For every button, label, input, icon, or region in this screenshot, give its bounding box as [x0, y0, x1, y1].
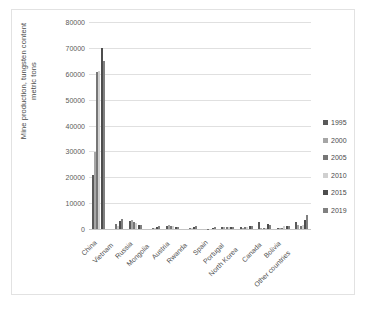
legend-label: 2010: [331, 172, 347, 179]
bar-group: [145, 22, 164, 229]
legend-label: 2000: [331, 137, 347, 144]
y-axis-tick-label: 80000: [66, 19, 85, 26]
legend-item[interactable]: 2005: [323, 149, 366, 167]
y-axis-tick-label: 60000: [66, 70, 85, 77]
legend-label: 2005: [331, 154, 347, 161]
plot-area: 8000070000600005000040000300002000010000…: [89, 22, 311, 229]
bar-group: [219, 22, 238, 229]
bar-group: [237, 22, 256, 229]
legend-swatch-icon: [323, 155, 328, 160]
y-axis-tick-label: 20000: [66, 174, 85, 181]
legend-swatch-icon: [323, 208, 328, 213]
y-axis-tick-label: 40000: [66, 122, 85, 129]
y-axis-title: Mine production, tungsten content metric…: [15, 1, 43, 161]
legend-label: 2019: [331, 207, 347, 214]
bar-group: [108, 22, 127, 229]
bar-group: [89, 22, 108, 229]
chart-container: Mine production, tungsten content metric…: [11, 9, 355, 295]
bar-group: [200, 22, 219, 229]
legend-swatch-icon: [323, 190, 328, 195]
bar-group: [163, 22, 182, 229]
legend-item[interactable]: 2010: [323, 167, 366, 185]
legend-item[interactable]: 2019: [323, 202, 366, 220]
y-axis-tick-label: 30000: [66, 148, 85, 155]
legend-item[interactable]: 2015: [323, 184, 366, 202]
legend-item[interactable]: 1995: [323, 114, 366, 132]
bar: [103, 61, 105, 229]
chart-legend: 199520002005201020152019: [323, 114, 366, 219]
bar-group: [182, 22, 201, 229]
y-axis-tick-label: 70000: [66, 44, 85, 51]
y-axis-title-line2: metric tons: [29, 23, 40, 139]
y-axis-tick-label: 50000: [66, 96, 85, 103]
y-axis-tick-label: 10000: [66, 200, 85, 207]
bar-group: [126, 22, 145, 229]
legend-label: 1995: [331, 119, 347, 126]
bar-group: [256, 22, 275, 229]
bars-layer: [89, 22, 311, 229]
y-axis-tick-label: 0: [81, 226, 85, 233]
bar-group: [274, 22, 293, 229]
x-axis-labels: ChinaVietnamRussiaMongoliaAustriaRwandaS…: [89, 231, 311, 293]
y-axis-title-line1: Mine production, tungsten content: [19, 23, 30, 139]
legend-swatch-icon: [323, 173, 328, 178]
legend-label: 2015: [331, 189, 347, 196]
legend-swatch-icon: [323, 138, 328, 143]
bar-group: [293, 22, 312, 229]
legend-swatch-icon: [323, 120, 328, 125]
legend-item[interactable]: 2000: [323, 132, 366, 150]
